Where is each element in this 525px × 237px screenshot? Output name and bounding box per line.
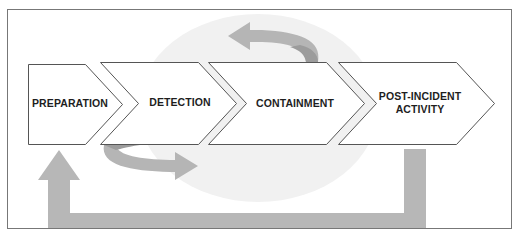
incident-response-diagram xyxy=(0,0,525,237)
phase-detection-label: DETECTION xyxy=(140,96,220,109)
phase-post-incident-label-line2: ACTIVITY xyxy=(370,103,470,116)
phase-post-incident-label: POST-INCIDENT ACTIVITY xyxy=(370,90,470,116)
phase-containment-label: CONTAINMENT xyxy=(250,97,340,110)
phase-preparation-label: PREPARATION xyxy=(30,97,110,110)
phase-post-incident-label-line1: POST-INCIDENT xyxy=(370,90,470,103)
